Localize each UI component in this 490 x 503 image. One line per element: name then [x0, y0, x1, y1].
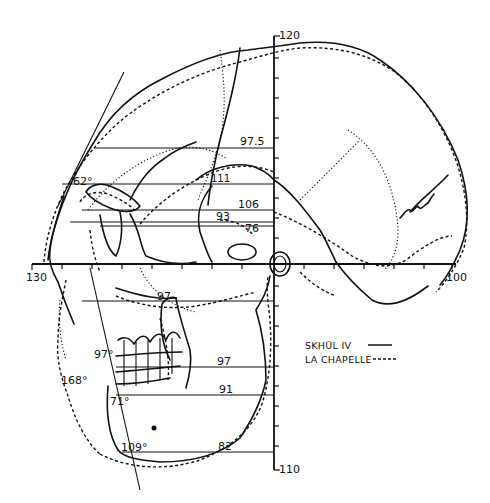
axis-label-left: 130 — [26, 271, 47, 284]
angle-97: 97° — [94, 348, 114, 361]
legend-item-la-chapelle: LA CHAPELLE — [305, 354, 397, 365]
measure-106: 106 — [238, 198, 259, 211]
legend-label-skhul-iv: SKHŪL IV — [305, 340, 352, 351]
measure-91: 91 — [219, 383, 233, 396]
legend-item-skhul-iv: SKHŪL IV — [305, 340, 392, 351]
horizontal-axis: 130 100 — [26, 264, 467, 284]
angle-109: 109° — [121, 441, 148, 454]
teeth — [116, 332, 182, 386]
skhul-iv-outline — [48, 42, 467, 490]
measure-97-lower: 97 — [217, 355, 231, 368]
legend-label-la-chapelle: LA CHAPELLE — [305, 354, 372, 365]
measure-97-5: 97.5 — [240, 135, 265, 148]
axis-label-bottom: 110 — [279, 463, 300, 476]
measure-111: 111 — [211, 173, 230, 184]
angle-62: 62° — [73, 175, 93, 188]
dotted-reference-lines — [59, 50, 398, 360]
axis-label-top: 120 — [279, 29, 300, 42]
measurement-lines: 97.5 111 106 93 76 97 97 91 82 — [62, 135, 274, 453]
legend: SKHŪL IV LA CHAPELLE — [305, 340, 397, 365]
angle-168: 168° — [61, 374, 88, 387]
angle-71: 71° — [110, 395, 130, 408]
diagram-canvas: 120 110 130 100 97.5 111 106 — [0, 0, 490, 503]
angle-labels: 62° 97° 168° 71° 109° — [61, 175, 148, 454]
skull-comparison-diagram: 120 110 130 100 97.5 111 106 — [0, 0, 490, 503]
